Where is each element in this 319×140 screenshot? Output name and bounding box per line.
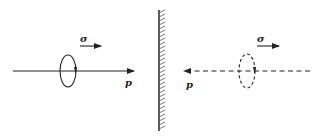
mirror-reflection-diagram: σ p — [0, 0, 319, 140]
right-momentum-label: p — [186, 79, 193, 90]
left-panel: σ p — [13, 33, 134, 88]
left-spin-label: σ — [80, 33, 88, 44]
right-spin-label: σ — [257, 33, 265, 44]
mirror-hatching — [159, 10, 165, 129]
mirror-wall — [159, 10, 165, 131]
left-momentum-label: p — [125, 77, 132, 88]
right-panel: σ p — [184, 33, 310, 90]
